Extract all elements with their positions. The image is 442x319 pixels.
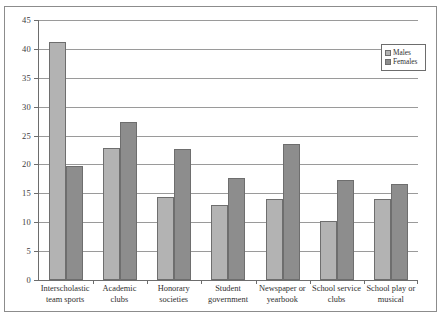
bar-females xyxy=(174,149,191,280)
bar-females xyxy=(391,184,408,280)
legend-label-males: Males xyxy=(393,49,411,57)
x-axis-label: Newspaper oryearbook xyxy=(255,283,309,305)
y-axis-tick-label: 0 xyxy=(27,275,31,285)
bar-group xyxy=(201,20,255,280)
x-axis-label-line: team sports xyxy=(39,294,91,305)
bar-group xyxy=(39,20,93,280)
bar-females xyxy=(66,166,83,280)
bar-males xyxy=(374,199,391,280)
bar-females xyxy=(228,178,245,280)
y-axis-tick-label: 25 xyxy=(22,131,31,141)
y-axis-tick-label: 10 xyxy=(22,217,31,227)
bar-males xyxy=(103,148,120,280)
legend-swatch-females-icon xyxy=(385,59,391,65)
legend-item-males: Males xyxy=(385,49,422,57)
bar-group xyxy=(147,20,201,280)
bar-chart: 051015202530354045 Interscholasticteam s… xyxy=(0,0,442,319)
x-axis-label-line: Academic clubs xyxy=(93,283,145,305)
x-axis-label: School serviceclubs xyxy=(309,283,363,305)
x-axis-label-line: School service xyxy=(310,283,362,294)
y-axis-tick-label: 35 xyxy=(22,73,31,83)
y-axis-tick-mark xyxy=(34,280,39,281)
x-axis-label-line: societies xyxy=(148,294,200,305)
x-axis-label-line: government xyxy=(202,294,254,305)
bar-females xyxy=(337,180,354,280)
x-axis-label-line: Interscholastic xyxy=(39,283,91,294)
legend-label-females: Females xyxy=(393,58,417,66)
x-axis-label: Studentgovernment xyxy=(201,283,255,305)
bar-males xyxy=(211,205,228,280)
x-axis-label: Academic clubs xyxy=(92,283,146,305)
x-axis-label: Interscholasticteam sports xyxy=(38,283,92,305)
bar-group xyxy=(256,20,310,280)
x-axis-label-line: clubs xyxy=(310,294,362,305)
x-axis-label-line: Honorary xyxy=(148,283,200,294)
bar-males xyxy=(266,199,283,280)
bar-groups xyxy=(39,20,418,280)
bar-group xyxy=(310,20,364,280)
x-axis-label-line: yearbook xyxy=(256,294,308,305)
y-axis-tick-label: 15 xyxy=(22,188,31,198)
bar-females xyxy=(283,144,300,280)
y-axis-tick-label: 45 xyxy=(22,15,31,25)
bar-males xyxy=(49,42,66,280)
legend-swatch-males-icon xyxy=(385,50,391,56)
x-axis-labels: Interscholasticteam sportsAcademic clubs… xyxy=(38,283,418,305)
y-axis-tick-label: 20 xyxy=(22,159,31,169)
y-axis-tick-label: 30 xyxy=(22,102,31,112)
x-axis-label: Honorarysocieties xyxy=(147,283,201,305)
bar-males xyxy=(157,197,174,280)
bar-males xyxy=(320,221,337,280)
legend: Males Females xyxy=(381,44,426,71)
x-axis-label-line: Newspaper or xyxy=(256,283,308,294)
x-axis-label-line: musical xyxy=(365,294,417,305)
bar-females xyxy=(120,122,137,280)
x-axis-label-line: Student xyxy=(202,283,254,294)
y-axis-tick-label: 5 xyxy=(27,246,31,256)
plot-area: 051015202530354045 xyxy=(38,20,418,281)
bar-group xyxy=(93,20,147,280)
y-axis-tick-label: 40 xyxy=(22,44,31,54)
x-axis-label: School play ormusical xyxy=(364,283,418,305)
x-axis-label-line: School play or xyxy=(365,283,417,294)
legend-item-females: Females xyxy=(385,58,422,66)
